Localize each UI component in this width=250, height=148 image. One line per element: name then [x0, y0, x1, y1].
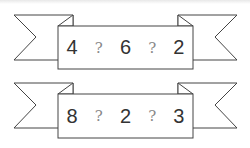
unknown-symbol: ?	[148, 107, 156, 125]
unknown-symbol: ?	[95, 39, 103, 57]
unknown-symbol: ?	[148, 39, 156, 57]
number: 2	[173, 36, 184, 59]
number: 4	[67, 36, 78, 59]
number: 2	[120, 105, 131, 128]
sequence-row-2: 8 ? 2 ? 3	[58, 94, 193, 138]
unknown-symbol: ?	[95, 107, 103, 125]
sequence-row-1: 4 ? 6 ? 2	[58, 26, 193, 69]
number: 8	[67, 105, 78, 128]
number: 6	[120, 36, 131, 59]
ribbon-2: 8 ? 2 ? 3	[0, 82, 250, 140]
cropped-text-line	[0, 0, 250, 4]
ribbon-1: 4 ? 6 ? 2	[0, 14, 250, 72]
number: 3	[173, 105, 184, 128]
